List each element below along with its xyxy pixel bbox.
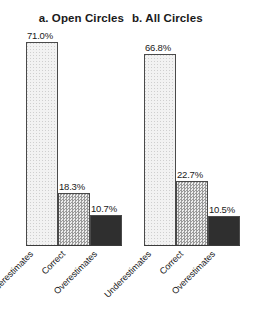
chart-panel-b: b. All Circles 66.8% 22.7% 10.5% Underes…: [126, 0, 244, 314]
bar-correct: [58, 193, 90, 246]
panel-a-category-label-underestimates: Underestimates: [0, 249, 35, 300]
bar-overestimates: [208, 216, 240, 246]
bar-correct: [176, 181, 208, 246]
panel-a-title: a. Open Circles: [8, 12, 126, 24]
bar-underestimates: [26, 42, 58, 246]
panel-b-bar-group-1: 22.7%: [176, 30, 208, 246]
panel-b-bar-group-2: 10.5%: [208, 30, 240, 246]
chart-panel-a: a. Open Circles 71.0% 18.3% 10.7% Undere…: [8, 0, 126, 314]
bar-underestimates: [144, 54, 176, 246]
panel-a-bar-group-1: 18.3%: [58, 30, 90, 246]
panel-a-plot-area: 71.0% 18.3% 10.7%: [26, 30, 122, 246]
bar-value-label: 66.8%: [145, 42, 171, 53]
figure-two-panel-bar-charts: a. Open Circles 71.0% 18.3% 10.7% Undere…: [0, 0, 256, 314]
panel-b-bar-group-0: 66.8%: [144, 30, 176, 246]
panel-b-title: b. All Circles: [126, 12, 244, 24]
panel-a-category-label-correct: Correct: [40, 249, 67, 276]
bar-value-label: 71.0%: [27, 30, 53, 41]
panel-b-category-label-correct: Correct: [158, 249, 185, 276]
bar-value-label: 18.3%: [59, 181, 85, 192]
bar-overestimates: [90, 215, 122, 246]
panel-a-bar-group-2: 10.7%: [90, 30, 122, 246]
panel-b-plot-area: 66.8% 22.7% 10.5%: [144, 30, 240, 246]
bar-value-label: 10.5%: [209, 204, 235, 215]
panel-b-axis-baseline: [144, 245, 240, 246]
panel-a-bar-group-0: 71.0%: [26, 30, 58, 246]
bar-value-label: 10.7%: [91, 203, 117, 214]
bar-value-label: 22.7%: [177, 169, 203, 180]
panel-a-axis-baseline: [26, 245, 122, 246]
